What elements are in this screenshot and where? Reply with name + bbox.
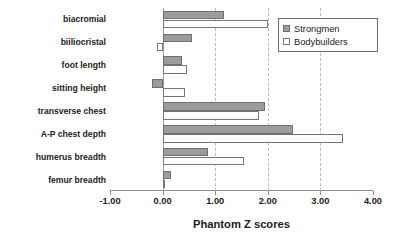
category-label-femur-breadth: femur breadth bbox=[0, 175, 106, 185]
chart-legend: Strongmen Bodybuilders bbox=[278, 18, 378, 52]
bar-bodybuilders-sitting-height bbox=[163, 88, 185, 97]
bar-bodybuilders-femur-breadth bbox=[163, 180, 165, 189]
category-label-foot-length: foot length bbox=[0, 60, 106, 70]
x-axis-title: Phantom Z scores bbox=[110, 218, 373, 230]
bar-group bbox=[110, 122, 373, 145]
bar-strongmen-humerus-breadth bbox=[163, 148, 209, 157]
x-tick-mark bbox=[268, 191, 269, 195]
x-tick-label: 0.00 bbox=[154, 196, 172, 206]
legend-item-strongmen: Strongmen bbox=[283, 22, 373, 35]
x-axis-tick-labels: -1.000.001.002.003.004.00 bbox=[110, 196, 373, 210]
x-tick-label: -1.00 bbox=[99, 196, 120, 206]
bar-group bbox=[110, 100, 373, 123]
filled-gray-square-icon bbox=[283, 25, 290, 32]
category-label-biacromial: biacromial bbox=[0, 14, 106, 24]
bar-group bbox=[110, 54, 373, 77]
x-tick-mark bbox=[320, 191, 321, 195]
category-label-a-p-chest-depth: A-P chest depth bbox=[0, 129, 106, 139]
chart-figure: biacromialbiiliocristalfoot lengthsittin… bbox=[0, 0, 400, 243]
bar-strongmen-a-p-chest-depth bbox=[163, 125, 293, 134]
category-label-sitting-height: sitting height bbox=[0, 83, 106, 93]
bar-group bbox=[110, 145, 373, 168]
legend-item-bodybuilders: Bodybuilders bbox=[283, 35, 373, 48]
category-label-biiliocristal: biiliocristal bbox=[0, 37, 106, 47]
x-tick-label: 3.00 bbox=[311, 196, 329, 206]
x-tick-label: 4.00 bbox=[364, 196, 382, 206]
bar-bodybuilders-a-p-chest-depth bbox=[163, 134, 343, 143]
x-tick-mark bbox=[215, 191, 216, 195]
bar-bodybuilders-transverse-chest bbox=[163, 111, 259, 120]
category-label-transverse-chest: transverse chest bbox=[0, 106, 106, 116]
category-axis-labels: biacromialbiiliocristalfoot lengthsittin… bbox=[0, 8, 106, 191]
bar-strongmen-sitting-height bbox=[152, 79, 163, 88]
category-label-humerus-breadth: humerus breadth bbox=[0, 152, 106, 162]
bar-strongmen-biacromial bbox=[163, 11, 225, 20]
open-white-square-icon bbox=[283, 38, 290, 45]
legend-label-strongmen: Strongmen bbox=[294, 24, 339, 34]
bar-bodybuilders-humerus-breadth bbox=[163, 157, 244, 166]
bar-strongmen-foot-length bbox=[163, 56, 182, 65]
x-tick-label: 1.00 bbox=[206, 196, 224, 206]
bar-bodybuilders-foot-length bbox=[163, 65, 187, 74]
bar-strongmen-femur-breadth bbox=[163, 171, 171, 180]
x-tick-label: 2.00 bbox=[259, 196, 277, 206]
bar-bodybuilders-biiliocristal bbox=[157, 43, 162, 52]
bar-group bbox=[110, 77, 373, 100]
bar-group bbox=[110, 168, 373, 191]
bar-strongmen-biiliocristal bbox=[163, 34, 192, 43]
bar-strongmen-transverse-chest bbox=[163, 102, 266, 111]
x-tick-mark bbox=[110, 191, 111, 195]
x-tick-mark bbox=[163, 191, 164, 195]
bar-bodybuilders-biacromial bbox=[163, 20, 268, 29]
x-tick-mark bbox=[373, 191, 374, 195]
legend-label-bodybuilders: Bodybuilders bbox=[294, 37, 348, 47]
